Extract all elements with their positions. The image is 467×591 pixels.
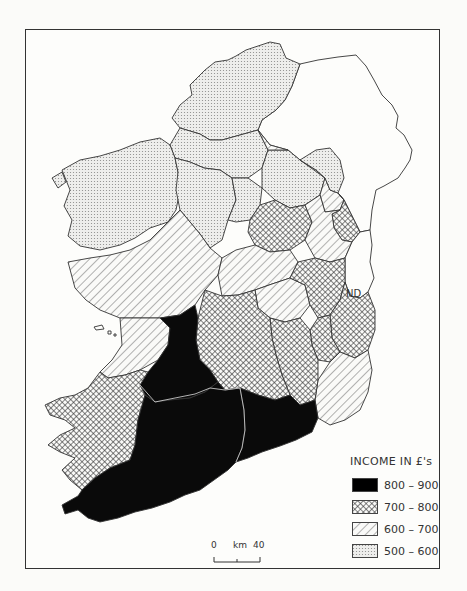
swatch-crosshatch bbox=[352, 500, 378, 514]
swatch-diagonal-lines bbox=[352, 522, 378, 536]
swatch-solid-black bbox=[352, 478, 378, 492]
no-data-label: ND bbox=[346, 288, 361, 299]
legend-item-600-700: 600 – 700 bbox=[352, 518, 442, 540]
scale-bar-line bbox=[213, 556, 273, 566]
legend-item-500-600: 500 – 600 bbox=[352, 540, 442, 562]
legend-label: 500 – 600 bbox=[384, 545, 438, 558]
legend-item-700-800: 700 – 800 bbox=[352, 496, 442, 518]
legend-title: INCOME IN £'s bbox=[350, 455, 442, 468]
legend-label: 600 – 700 bbox=[384, 523, 438, 536]
legend-item-800-900: 800 – 900 bbox=[352, 474, 442, 496]
legend: INCOME IN £'s 800 – 900 700 – 800 600 – … bbox=[352, 455, 442, 562]
scale-unit-label: km bbox=[233, 540, 247, 550]
islands-aran bbox=[94, 325, 116, 336]
region-westmeath bbox=[248, 200, 312, 252]
legend-label: 700 – 800 bbox=[384, 501, 438, 514]
scale-bar: 0 km 40 bbox=[213, 540, 273, 570]
legend-label: 800 – 900 bbox=[384, 479, 438, 492]
scale-end-label: 40 bbox=[253, 540, 264, 550]
swatch-fine-dots bbox=[352, 544, 378, 558]
scale-start-label: 0 bbox=[211, 540, 217, 550]
